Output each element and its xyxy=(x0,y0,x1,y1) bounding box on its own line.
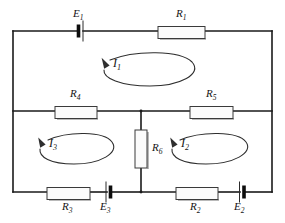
resistor-R3-body xyxy=(47,188,90,200)
label-I1: I1 xyxy=(113,57,121,72)
mesh-current-I3-arrowhead xyxy=(38,137,45,147)
junction-node-bottom-center xyxy=(140,191,143,194)
label-R1: R1 xyxy=(176,8,186,22)
label-R6: R6 xyxy=(152,142,162,156)
junction-node-top-center xyxy=(140,110,143,113)
label-R5: R5 xyxy=(206,88,216,102)
resistor-R6 xyxy=(135,130,149,169)
resistor-R2 xyxy=(176,188,219,202)
resistor-R1 xyxy=(158,27,206,41)
resistor-R5-body xyxy=(190,107,233,119)
resistor-R4 xyxy=(55,107,98,121)
circuit-diagram: E1 R1 R4 R5 R6 R3 E3 R2 E2 I1 I3 I2 xyxy=(0,0,285,223)
resistor-R1-body xyxy=(158,27,205,39)
label-E1: E1 xyxy=(73,8,83,22)
mesh-current-I2-arrowhead xyxy=(170,137,177,147)
label-E2: E2 xyxy=(234,201,244,215)
resistor-R3 xyxy=(47,188,91,202)
resistor-R4-body xyxy=(55,107,97,119)
label-I3: I3 xyxy=(49,137,57,152)
label-R4: R4 xyxy=(70,88,80,102)
label-R3: R3 xyxy=(62,201,72,215)
mesh-current-I1-arrowhead xyxy=(102,58,110,69)
label-I2: I2 xyxy=(181,137,189,152)
resistor-R6-body xyxy=(135,130,147,168)
label-E3: E3 xyxy=(100,201,110,215)
circuit-schematic-canvas xyxy=(0,0,285,223)
resistor-R2-body xyxy=(176,188,218,200)
resistor-R5 xyxy=(190,107,234,121)
label-R2: R2 xyxy=(190,201,200,215)
